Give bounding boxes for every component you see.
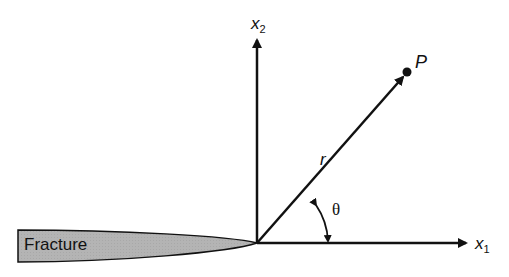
fracture-label: Fracture: [24, 235, 87, 255]
x1-subscript: 1: [484, 243, 490, 255]
theta-label: θ: [332, 200, 340, 220]
x2-subscript: 2: [260, 23, 266, 35]
point-p-label: P: [415, 52, 427, 73]
x2-symbol: x: [251, 14, 260, 33]
radius-vector: [257, 77, 403, 243]
theta-arc: [316, 205, 328, 241]
x2-axis-label: x2: [251, 14, 266, 35]
x1-axis-label: x1: [475, 234, 490, 255]
point-p-marker: [403, 68, 412, 77]
x1-symbol: x: [475, 234, 484, 253]
radius-label: r: [320, 150, 326, 170]
